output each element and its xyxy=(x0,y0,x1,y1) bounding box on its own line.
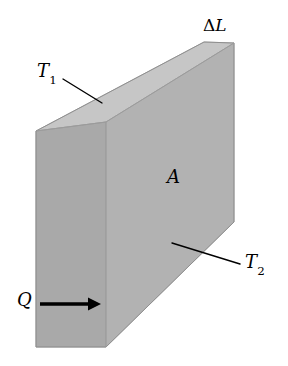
heat-flow-symbol: Q xyxy=(17,289,32,310)
heat-flow-label: Q xyxy=(17,291,32,309)
temperature-t1-label: T1 xyxy=(37,62,57,84)
t1-subscript: 1 xyxy=(49,73,57,87)
thickness-label: ΔL xyxy=(203,17,227,34)
leader-line-t1 xyxy=(63,79,102,103)
heat-conduction-figure: ΔL T1 A T2 Q xyxy=(0,0,288,366)
t2-symbol: T xyxy=(245,251,257,272)
area-symbol: A xyxy=(167,166,180,187)
t2-subscript: 2 xyxy=(257,264,265,278)
temperature-t2-label: T2 xyxy=(245,253,265,275)
thickness-symbol: L xyxy=(215,15,226,35)
slab-left-end-face xyxy=(36,122,106,347)
area-label: A xyxy=(167,168,180,186)
slab-diagram-svg xyxy=(0,0,288,366)
t1-symbol: T xyxy=(37,60,49,81)
delta-glyph: Δ xyxy=(203,15,215,35)
